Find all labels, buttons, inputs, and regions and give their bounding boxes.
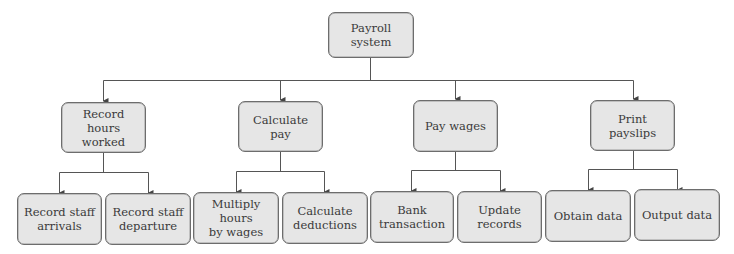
label-line-2: records [477,217,521,231]
label-line-1: Bank [397,203,427,217]
label-line-1: Calculate [297,204,352,218]
label-line-1: Record [83,107,125,121]
node-label: Record hours worked [66,107,141,149]
node-record-staff-departure: Record staff departure [105,193,191,245]
node-label: Record staff arrivals [24,205,95,233]
label-line-2: system [351,35,392,49]
node-label: Record staff departure [113,205,184,233]
node-payroll-system: Payroll system [328,12,414,58]
node-calculate-deductions: Calculate deductions [282,192,368,244]
node-bank-transaction: Bank transaction [370,191,454,243]
label-line-1: Payroll [351,21,391,35]
payroll-hierarchy-diagram: Payroll system Record hours worked Calcu… [0,0,734,254]
label-line-2: transaction [379,217,445,231]
label-line-2: deductions [293,218,357,232]
node-output-data: Output data [634,189,720,241]
node-record-staff-arrivals: Record staff arrivals [17,193,102,245]
node-label: Pay wages [425,119,486,133]
label-line-1: Record staff [113,205,184,219]
node-obtain-data: Obtain data [545,190,631,242]
node-pay-wages: Pay wages [413,100,498,152]
node-label: Obtain data [554,209,623,223]
node-calculate-pay: Calculate pay [238,101,323,152]
node-label: Multiply hours by wages [198,197,274,239]
label-line-2: hours worked [82,121,125,149]
node-record-hours-worked: Record hours worked [61,102,146,153]
node-label: Calculate pay [243,113,318,141]
label-line-1: Multiply hours [212,197,261,225]
node-label: Update records [477,203,521,231]
label-line-1: Update [478,203,521,217]
label-line-1: Record staff [24,205,95,219]
node-label: Calculate deductions [293,204,357,232]
node-label: Bank transaction [379,203,445,231]
node-print-payslips: Print payslips [590,100,675,151]
node-label: Output data [642,208,712,222]
node-label: Payroll system [351,21,392,49]
label-line-2: departure [119,219,177,233]
label-line-2: by wages [209,225,263,239]
node-label: Print payslips [595,112,670,140]
label-line-2: arrivals [37,219,81,233]
node-multiply-hours-by-wages: Multiply hours by wages [193,192,279,244]
node-update-records: Update records [457,191,542,243]
